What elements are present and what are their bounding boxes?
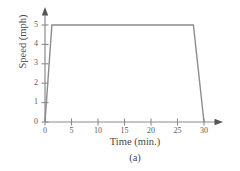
data-series-speed — [45, 25, 204, 122]
figure-caption: (a) — [60, 152, 210, 163]
x-tick-label-5: 5 — [65, 127, 79, 135]
y-axis-title: Speed (mph) — [17, 4, 28, 80]
y-tick-label-5: 5 — [26, 21, 38, 29]
x-tick-label-20: 20 — [144, 127, 158, 135]
y-tick-label-1: 1 — [26, 98, 38, 106]
x-axis-title: Time (min.) — [60, 136, 210, 147]
x-tick-label-15: 15 — [118, 127, 132, 135]
y-tick-label-2: 2 — [26, 79, 38, 87]
x-tick-label-25: 25 — [171, 127, 185, 135]
x-tick-label-30: 30 — [197, 127, 211, 135]
y-axis-arrow-icon — [42, 7, 48, 16]
figure-panel: 5 4 3 2 1 0 0 5 10 15 20 25 30 Speed (mp… — [0, 0, 240, 171]
x-tick-label-0: 0 — [38, 127, 52, 135]
x-tick-label-10: 10 — [91, 127, 105, 135]
y-tick-label-3: 3 — [26, 59, 38, 67]
x-axis-arrow-icon — [215, 119, 224, 125]
y-tick-label-4: 4 — [26, 40, 38, 48]
y-tick-label-0: 0 — [26, 118, 38, 126]
